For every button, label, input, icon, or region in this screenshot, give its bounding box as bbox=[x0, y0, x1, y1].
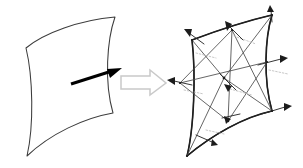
vertex-dot-top-left bbox=[191, 39, 193, 41]
smooth-surface-outline bbox=[26, 17, 115, 156]
ghost-stroke-mid-right bbox=[269, 70, 288, 74]
surface-normal-head bbox=[107, 68, 122, 78]
smooth-surface-panel bbox=[26, 17, 122, 156]
normal-head-bottom-right bbox=[284, 103, 292, 111]
normal-head-mid-left bbox=[167, 77, 175, 85]
vertex-dot-top-mid bbox=[231, 29, 233, 31]
normal-head-top-left bbox=[184, 29, 192, 37]
normal-head-bottom-left bbox=[211, 139, 218, 146]
vertex-dot-top-right bbox=[271, 14, 273, 16]
vertex-dot-mid-left bbox=[179, 82, 181, 84]
vertex-dot-bottom-left bbox=[186, 155, 188, 157]
vertex-dot-bottom-right bbox=[271, 110, 273, 112]
block-arrow-right-icon bbox=[121, 70, 166, 95]
normal-head-top-right bbox=[267, 5, 274, 12]
mesh-surface-panel bbox=[167, 5, 292, 157]
normal-head-mid-right bbox=[280, 55, 288, 63]
vertex-dot-center bbox=[223, 77, 226, 80]
vertex-dot-mid-right bbox=[266, 61, 268, 63]
normal-shaft-mid-left bbox=[174, 81, 192, 85]
diagram-root bbox=[0, 0, 303, 168]
transform-arrow-group bbox=[121, 70, 166, 95]
vertex-dot-bottom-mid bbox=[227, 120, 230, 123]
diagram-canvas bbox=[0, 0, 303, 168]
